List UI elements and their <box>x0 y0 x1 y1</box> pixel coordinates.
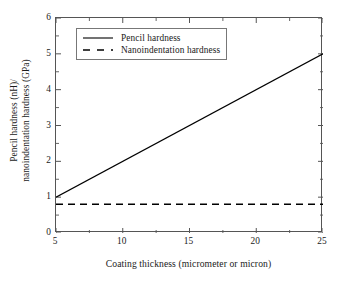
x-tick-label: 20 <box>240 236 270 246</box>
y-axis-title-line-2: nanoindentation hardness (GPa) <box>20 59 32 181</box>
y-tick-label: 3 <box>35 120 51 130</box>
y-tick-label: 5 <box>35 48 51 58</box>
x-tick-label: 15 <box>174 236 204 246</box>
series-line-1 <box>56 54 323 197</box>
y-tick-label: 4 <box>35 84 51 94</box>
legend-label-pencil-hardness: Pencil hardness <box>121 33 181 43</box>
legend-item: Nanoindentation hardness <box>82 44 220 56</box>
legend-key-solid-line-icon <box>82 33 114 43</box>
legend-label-nanoindentation-hardness: Nanoindentation hardness <box>121 45 220 55</box>
x-tick-label: 5 <box>40 236 70 246</box>
chart-figure: Pencil hardness (nH)/ nanoindentation ha… <box>0 0 341 283</box>
x-tick-label: 25 <box>307 236 337 246</box>
y-axis-tick-labels: 0123456 <box>33 17 51 232</box>
data-series <box>56 54 323 205</box>
x-tick-label: 10 <box>107 236 137 246</box>
legend-item: Pencil hardness <box>82 32 220 44</box>
x-axis-tick-labels: 510152025 <box>55 236 322 250</box>
y-tick-label: 6 <box>35 12 51 22</box>
y-tick-label: 2 <box>35 155 51 165</box>
y-tick-label: 1 <box>35 191 51 201</box>
legend-key-dashed-line-icon <box>82 45 114 55</box>
y-axis-title-line-1: Pencil hardness (nH)/ <box>9 59 21 181</box>
x-axis-title: Coating thickness (micrometer or micron) <box>55 258 322 269</box>
chart-legend: Pencil hardness Nanoindentation hardness <box>76 28 227 60</box>
